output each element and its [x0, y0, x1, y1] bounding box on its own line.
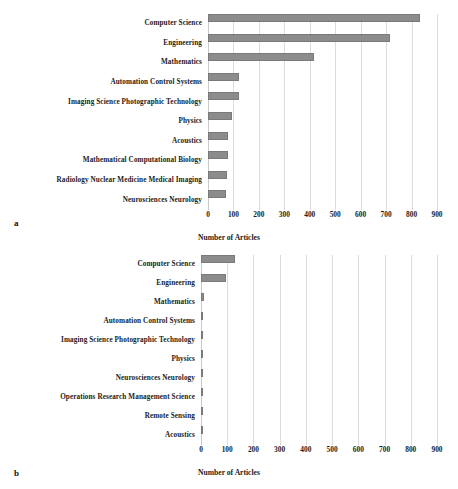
chart-panel-b: b Computer ScienceEngineeringMathematics…: [0, 245, 458, 489]
category-label: Imaging Science Photographic Technology: [0, 337, 201, 344]
bar-cell: [201, 312, 458, 331]
bar-cell: [208, 190, 458, 210]
bar: [201, 369, 203, 377]
category-label: Mathematics: [0, 59, 208, 66]
bar-cell: [208, 73, 458, 93]
bar: [201, 274, 226, 282]
bar-chart-a: Computer ScienceEngineeringMathematicsAu…: [0, 14, 458, 242]
x-tick-label: 100: [222, 445, 233, 454]
bar-rows-b: Computer ScienceEngineeringMathematicsAu…: [0, 255, 458, 445]
category-label: Acoustics: [0, 432, 201, 439]
bar-rows-a: Computer ScienceEngineeringMathematicsAu…: [0, 14, 458, 210]
bar-cell: [201, 274, 458, 293]
bar-row: Automation Control Systems: [0, 312, 458, 331]
bar-row: Imaging Science Photographic Technology: [0, 92, 458, 112]
bar-row: Automation Control Systems: [0, 73, 458, 93]
x-tick-label: 500: [327, 445, 338, 454]
bar-row: Computer Science: [0, 14, 458, 34]
x-tick-label: 200: [248, 445, 259, 454]
bar-cell: [208, 171, 458, 191]
bar-row: Physics: [0, 350, 458, 369]
bar-cell: [201, 407, 458, 426]
x-axis-b: 0100200300400500600700800900: [0, 445, 458, 467]
bar-row: Engineering: [0, 34, 458, 54]
x-tick-label: 700: [381, 210, 392, 219]
x-tick-label: 300: [274, 445, 285, 454]
x-tick-label: 400: [304, 210, 315, 219]
bar-cell: [201, 369, 458, 388]
x-tick-label: 600: [355, 210, 366, 219]
bar: [208, 73, 239, 81]
x-tick-label: 700: [379, 445, 390, 454]
bar-cell: [208, 132, 458, 152]
bar-cell: [208, 112, 458, 132]
bar: [201, 426, 203, 434]
bar-row: Neurosciences Neurology: [0, 369, 458, 388]
bar: [208, 14, 420, 22]
category-label: Remote Sensing: [0, 413, 201, 420]
category-label: Mathematics: [0, 299, 201, 306]
bar-cell: [208, 92, 458, 112]
bar: [208, 34, 390, 42]
x-axis-title-b: Number of Articles: [0, 468, 458, 477]
bar: [201, 331, 203, 339]
category-label: Acoustics: [0, 138, 208, 145]
bar: [201, 350, 203, 358]
category-label: Automation Control Systems: [0, 79, 208, 86]
x-axis-a: 0100200300400500600700800900: [0, 210, 458, 232]
bar-cell: [201, 331, 458, 350]
bar-row: Radiology Nuclear Medicine Medical Imagi…: [0, 171, 458, 191]
category-label: Radiology Nuclear Medicine Medical Imagi…: [0, 177, 208, 184]
bar-row: Mathematical Computational Biology: [0, 151, 458, 171]
bar: [201, 388, 203, 396]
bar-row: Acoustics: [0, 132, 458, 152]
x-tick-label: 600: [353, 445, 364, 454]
bar: [208, 53, 314, 61]
x-tick-label: 100: [228, 210, 239, 219]
bar-row: Acoustics: [0, 426, 458, 445]
bar: [201, 255, 235, 263]
bar: [208, 132, 228, 140]
bar: [201, 407, 203, 415]
bar-row: Mathematics: [0, 53, 458, 73]
bar-cell: [201, 350, 458, 369]
bar-row: Imaging Science Photographic Technology: [0, 331, 458, 350]
bar: [208, 171, 227, 179]
bar-row: Computer Science: [0, 255, 458, 274]
category-label: Computer Science: [0, 20, 208, 27]
category-label: Physics: [0, 356, 201, 363]
x-tick-label: 300: [279, 210, 290, 219]
bar: [208, 190, 226, 198]
x-tick-label: 0: [199, 445, 203, 454]
x-axis-title-a: Number of Articles: [0, 233, 458, 242]
x-tick-label: 200: [253, 210, 264, 219]
bar-row: Operations Research Management Science: [0, 388, 458, 407]
bar-cell: [201, 388, 458, 407]
bar-row: Neurosciences Neurology: [0, 190, 458, 210]
bar-cell: [208, 53, 458, 73]
category-label: Physics: [0, 118, 208, 125]
bar-cell: [201, 293, 458, 312]
bar-row: Engineering: [0, 274, 458, 293]
x-tick-label: 900: [431, 445, 442, 454]
bar-row: Mathematics: [0, 293, 458, 312]
bar: [208, 151, 228, 159]
bar: [208, 112, 232, 120]
category-label: Operations Research Management Science: [0, 394, 201, 401]
x-tick-label: 800: [406, 210, 417, 219]
bar-row: Physics: [0, 112, 458, 132]
x-tick-label: 400: [300, 445, 311, 454]
bar: [208, 92, 239, 100]
category-label: Imaging Science Photographic Technology: [0, 99, 208, 106]
category-label: Automation Control Systems: [0, 318, 201, 325]
chart-panel-a: a Computer ScienceEngineeringMathematics…: [0, 0, 458, 245]
bar-cell: [208, 34, 458, 54]
category-label: Neurosciences Neurology: [0, 197, 208, 204]
x-tick-label: 0: [206, 210, 210, 219]
bar: [201, 293, 204, 301]
category-label: Neurosciences Neurology: [0, 375, 201, 382]
category-label: Mathematical Computational Biology: [0, 157, 208, 164]
bar-row: Remote Sensing: [0, 407, 458, 426]
bar-chart-b: Computer ScienceEngineeringMathematicsAu…: [0, 255, 458, 477]
category-label: Computer Science: [0, 261, 201, 268]
